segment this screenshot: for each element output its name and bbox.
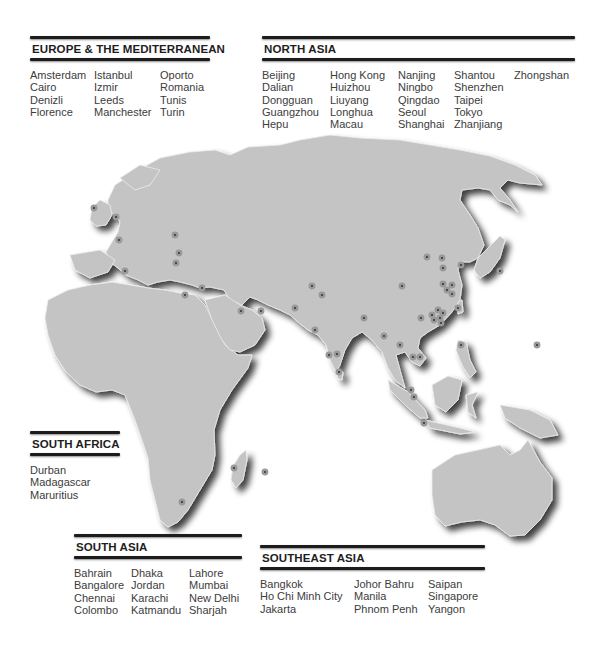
city-name: Ningbo <box>398 81 454 93</box>
city-column: Johor Bahru Manila Phnom Penh <box>354 578 428 615</box>
city-name: Zhanjiang <box>454 118 514 130</box>
city-name: Turin <box>160 106 204 118</box>
city-name: Hong Kong <box>330 69 398 81</box>
new-guinea-landmass <box>500 405 558 438</box>
city-column: Shantou Shenzhen Taipei Tokyo Zhanjiang <box>454 69 514 130</box>
city-name: Dalian <box>262 81 330 93</box>
australia-landmass <box>432 440 552 536</box>
city-name: Liuyang <box>330 94 398 106</box>
city-name: Manchester <box>94 106 160 118</box>
city-name: Longhua <box>330 106 398 118</box>
city-list: Durban Madagascar Maruritius <box>30 464 120 501</box>
city-name: Bangkok <box>260 578 354 590</box>
city-name: Karachi <box>131 592 189 604</box>
city-name: Durban <box>30 464 91 476</box>
city-name: Colombo <box>74 604 131 616</box>
region-north-asia: NORTH ASIA Beijing Dalian Dongguan Guang… <box>262 36 575 130</box>
city-name: Maruritius <box>30 489 91 501</box>
region-bottom-rule <box>30 58 210 61</box>
city-name: Istanbul <box>94 69 160 81</box>
region-title: SOUTH ASIA <box>74 537 242 556</box>
city-name: Jakarta <box>260 603 354 615</box>
city-name: Seoul <box>398 106 454 118</box>
region-europe: EUROPE & THE MEDITERRANEAN Amsterdam Cai… <box>30 36 210 118</box>
region-bottom-rule <box>30 453 120 456</box>
city-name: Guangzhou <box>262 106 330 118</box>
city-name: Tunis <box>160 94 204 106</box>
borneo-landmass <box>432 376 462 412</box>
region-southeast-asia: SOUTHEAST ASIA Bangkok Ho Chi Minh City … <box>260 545 485 615</box>
city-column: Hong Kong Huizhou Liuyang Longhua Macau <box>330 69 398 130</box>
city-column: Beijing Dalian Dongguan Guangzhou Hepu <box>262 69 330 130</box>
city-name: Huizhou <box>330 81 398 93</box>
city-name: Amsterdam <box>30 69 94 81</box>
region-title: SOUTH AFRICA <box>30 434 120 453</box>
city-name: Mumbai <box>189 579 239 591</box>
city-name: Shantou <box>454 69 514 81</box>
region-south-asia: SOUTH ASIA Bahrain Bangalore Chennai Col… <box>74 534 242 616</box>
region-title: EUROPE & THE MEDITERRANEAN <box>30 39 210 58</box>
city-column: Dhaka Jordan Karachi Katmandu <box>131 567 189 616</box>
city-name: Romania <box>160 81 204 93</box>
region-title: SOUTHEAST ASIA <box>260 548 485 567</box>
city-name: Jordan <box>131 579 189 591</box>
city-name: Manila <box>354 590 428 602</box>
city-name: Denizli <box>30 94 94 106</box>
sumatra-landmass <box>388 380 428 418</box>
city-name: Shanghai <box>398 118 454 130</box>
city-name: Beijing <box>262 69 330 81</box>
city-column: Lahore Mumbai New Delhi Sharjah <box>189 567 239 616</box>
city-name: Nanjing <box>398 69 454 81</box>
city-name: Lahore <box>189 567 239 579</box>
city-name: Dongguan <box>262 94 330 106</box>
city-list: Bangkok Ho Chi Minh City Jakarta Johor B… <box>260 578 485 615</box>
city-name: Phnom Penh <box>354 603 428 615</box>
region-bottom-rule <box>260 567 485 570</box>
city-list: Bahrain Bangalore Chennai Colombo Dhaka … <box>74 567 242 616</box>
city-name: Izmir <box>94 81 160 93</box>
sulawesi-landmass <box>466 392 478 418</box>
city-name: Yangon <box>428 603 478 615</box>
city-name: Shenzhen <box>454 81 514 93</box>
region-bottom-rule <box>262 58 575 61</box>
region-south-africa: SOUTH AFRICA Durban Madagascar Maruritiu… <box>30 431 120 501</box>
city-name: Sharjah <box>189 604 239 616</box>
city-column: Amsterdam Cairo Denizli Florence <box>30 69 94 118</box>
city-list: Beijing Dalian Dongguan Guangzhou Hepu H… <box>262 69 575 130</box>
city-name: Qingdao <box>398 94 454 106</box>
city-column: Istanbul Izmir Leeds Manchester <box>94 69 160 118</box>
city-name: Katmandu <box>131 604 189 616</box>
region-title: NORTH ASIA <box>262 39 575 58</box>
city-name: Johor Bahru <box>354 578 428 590</box>
city-name: Florence <box>30 106 94 118</box>
city-name: Taipei <box>454 94 514 106</box>
city-column: Durban Madagascar Maruritius <box>30 464 91 501</box>
city-name: Oporto <box>160 69 204 81</box>
city-name: Madagascar <box>30 476 91 488</box>
city-name: Zhongshan <box>514 69 569 81</box>
city-name: Macau <box>330 118 398 130</box>
city-column: Zhongshan <box>514 69 569 130</box>
city-name: Ho Chi Minh City <box>260 590 354 602</box>
city-name: New Delhi <box>189 592 239 604</box>
city-column: Bahrain Bangalore Chennai Colombo <box>74 567 131 616</box>
city-name: Tokyo <box>454 106 514 118</box>
city-name: Bahrain <box>74 567 131 579</box>
city-name: Hepu <box>262 118 330 130</box>
city-name: Cairo <box>30 81 94 93</box>
java-landmass <box>425 420 475 434</box>
city-name: Bangalore <box>74 579 131 591</box>
city-name: Singapore <box>428 590 478 602</box>
city-name: Chennai <box>74 592 131 604</box>
city-column: Oporto Romania Tunis Turin <box>160 69 204 118</box>
city-name: Dhaka <box>131 567 189 579</box>
city-column: Saipan Singapore Yangon <box>428 578 478 615</box>
city-column: Bangkok Ho Chi Minh City Jakarta <box>260 578 354 615</box>
city-name: Saipan <box>428 578 478 590</box>
region-bottom-rule <box>74 556 242 559</box>
city-name: Leeds <box>94 94 160 106</box>
city-column: Nanjing Ningbo Qingdao Seoul Shanghai <box>398 69 454 130</box>
city-list: Amsterdam Cairo Denizli Florence Istanbu… <box>30 69 210 118</box>
